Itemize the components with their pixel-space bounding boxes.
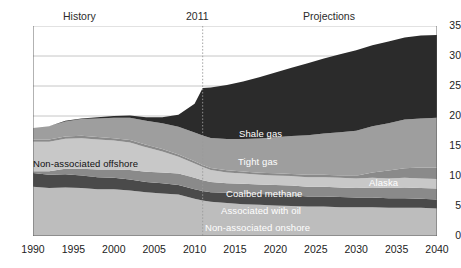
series-annotation-label: Associated with oil (221, 205, 301, 216)
series-annotation-label: Non-associated offshore (33, 158, 138, 169)
series-annotation-label: Non-associated onshore (205, 222, 310, 233)
divider-year-label: 2011 (186, 10, 209, 22)
y-axis-tick-label: 25 (435, 79, 461, 91)
y-axis-tick-label: 0 (435, 229, 461, 241)
natural-gas-production-area-chart: History 2011 Projections 051015202530351… (0, 0, 461, 268)
x-axis-tick-label: 2025 (296, 243, 336, 255)
y-axis (0, 0, 30, 268)
x-axis-tick-label: 2000 (94, 243, 134, 255)
x-axis-tick-label: 2040 (417, 243, 457, 255)
x-axis-tick-label: 1995 (53, 243, 93, 255)
series-annotation-label: Tight gas (238, 156, 278, 167)
series-annotation-label: Alaska (369, 177, 398, 188)
series-annotation-label: Coalbed methane (226, 188, 303, 199)
x-axis-tick-label: 2010 (175, 243, 215, 255)
y-axis-tick-label: 30 (435, 49, 461, 61)
x-axis-tick-label: 2020 (255, 243, 295, 255)
x-axis-tick-label: 2005 (134, 243, 174, 255)
history-region-label: History (63, 10, 96, 22)
y-axis-tick-label: 5 (435, 199, 461, 211)
projections-region-label: Projections (303, 10, 355, 22)
x-axis-tick-label: 2030 (336, 243, 376, 255)
x-axis-tick-label: 2035 (377, 243, 417, 255)
y-axis-tick-label: 15 (435, 139, 461, 151)
x-axis-tick-label: 1990 (13, 243, 53, 255)
y-axis-tick-label: 10 (435, 169, 461, 181)
y-axis-tick-label: 20 (435, 109, 461, 121)
series-annotation-label: Shale gas (239, 128, 282, 139)
x-axis-tick-label: 2015 (215, 243, 255, 255)
y-axis-tick-label: 35 (435, 19, 461, 31)
